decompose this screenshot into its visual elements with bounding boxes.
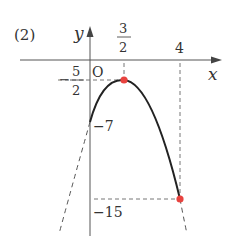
svg-text:−: − [59, 72, 70, 87]
origin-label: O [92, 64, 103, 80]
y-axis-label: y [73, 23, 84, 43]
svg-text:2: 2 [119, 40, 127, 55]
tick-x-vertex: 3 2 [117, 21, 131, 55]
y-axis-arrow-icon [87, 26, 94, 37]
x-axis-arrow-icon [211, 57, 222, 64]
parabola-curve [90, 80, 180, 199]
svg-text:5: 5 [72, 64, 80, 79]
vertex-point [120, 76, 127, 83]
x-axis-label: x [208, 64, 218, 84]
tick-y-vertex: − 5 2 [59, 64, 84, 98]
x-axis [20, 57, 222, 64]
graph-canvas: (2) y x O 3 2 4 − 5 2 −7 −15 [0, 0, 232, 244]
svg-text:2: 2 [72, 83, 80, 98]
tick-x-4: 4 [175, 40, 184, 56]
problem-label: (2) [14, 26, 35, 44]
svg-text:3: 3 [119, 21, 127, 36]
tick-y-min: −15 [93, 204, 123, 220]
parabola-extension [59, 122, 187, 234]
tick-y-intercept: −7 [93, 118, 114, 134]
min-point [176, 195, 183, 202]
